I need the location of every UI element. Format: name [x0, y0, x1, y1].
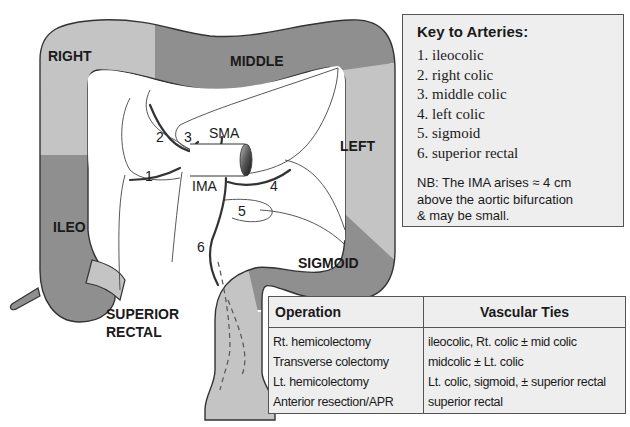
- artery-number-3: 3: [184, 129, 192, 145]
- operations-table: Operation Vascular Ties Rt. hemicolectom…: [268, 296, 626, 414]
- label-superior-rectal-1: SUPERIOR: [106, 306, 179, 322]
- label-left: LEFT: [340, 138, 375, 154]
- aorta: [190, 144, 252, 176]
- label-superior-rectal-2: RECTAL: [106, 324, 162, 340]
- cell-operation: Rt. hemicolectomy: [269, 328, 424, 354]
- label-sigmoid: SIGMOID: [298, 255, 359, 271]
- header-operation: Operation: [269, 297, 424, 328]
- table-header-row: Operation Vascular Ties: [269, 297, 626, 328]
- appendix: [10, 288, 40, 310]
- key-item: 2. right colic: [417, 66, 613, 86]
- key-list: 1. ileocolic 2. right colic 3. middle co…: [417, 46, 613, 163]
- key-item: 6. superior rectal: [417, 144, 613, 164]
- artery-key-box: Key to Arteries: 1. ileocolic 2. right c…: [402, 14, 624, 227]
- header-vascular-ties: Vascular Ties: [424, 297, 626, 328]
- table-row: Rt. hemicolectomy ileocolic, Rt. colic ±…: [269, 328, 626, 354]
- artery-number-6: 6: [197, 239, 205, 255]
- key-note: NB: The IMA arises ≈ 4 cm above the aort…: [417, 175, 613, 225]
- key-note-line: above the aortic bifurcation: [417, 192, 613, 209]
- cell-ties: ileocolic, Rt. colic ± mid colic: [424, 328, 626, 354]
- key-note-line: NB: The IMA arises ≈ 4 cm: [417, 175, 613, 192]
- key-item: 5. sigmoid: [417, 124, 613, 144]
- key-item: 3. middle colic: [417, 85, 613, 105]
- key-note-line: & may be small.: [417, 208, 613, 225]
- key-title: Key to Arteries:: [417, 23, 613, 40]
- table-row: Anterior resection/APR superior rectal: [269, 393, 626, 413]
- cell-ties: midcolic ± Lt. colic: [424, 353, 626, 373]
- label-right: RIGHT: [48, 48, 92, 64]
- artery-number-2: 2: [156, 129, 164, 145]
- cell-operation: Lt. hemicolectomy: [269, 373, 424, 393]
- cell-operation: Transverse colectomy: [269, 353, 424, 373]
- key-item: 4. left colic: [417, 105, 613, 125]
- artery-number-4: 4: [270, 178, 278, 194]
- cell-ties: superior rectal: [424, 393, 626, 413]
- label-sma: SMA: [209, 125, 240, 141]
- table-row: Lt. hemicolectomy Lt. colic, sigmoid, ± …: [269, 373, 626, 393]
- aorta-lumen: [240, 144, 252, 176]
- artery-number-5: 5: [238, 203, 246, 219]
- table-row: Transverse colectomy midcolic ± Lt. coli…: [269, 353, 626, 373]
- label-middle: MIDDLE: [230, 53, 284, 69]
- label-ima: IMA: [192, 178, 218, 194]
- cell-ties: Lt. colic, sigmoid, ± superior rectal: [424, 373, 626, 393]
- key-item: 1. ileocolic: [417, 46, 613, 66]
- artery-number-1: 1: [145, 168, 153, 184]
- label-ileo: ILEO: [53, 219, 86, 235]
- cell-operation: Anterior resection/APR: [269, 393, 424, 413]
